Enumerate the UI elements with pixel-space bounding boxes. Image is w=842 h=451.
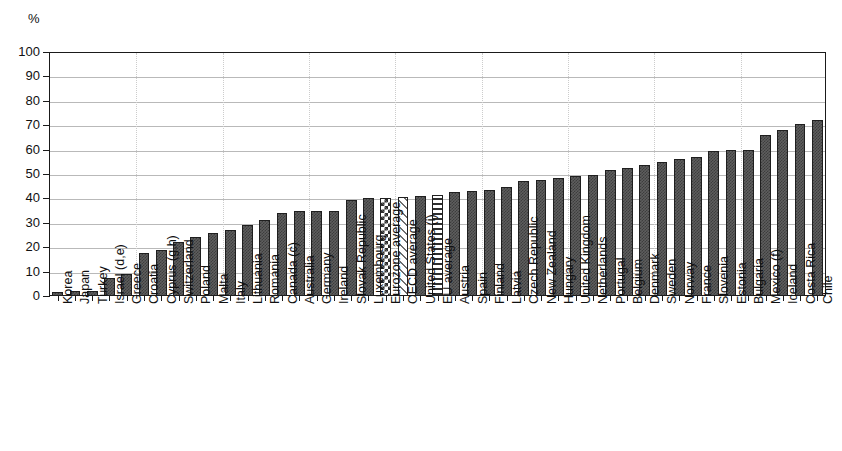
x-axis-label-finland: Finland <box>494 263 507 304</box>
x-axis-label-eurozone-average: Eurozone average <box>390 202 403 304</box>
x-axis-label-text: Slovak Republic <box>356 214 369 304</box>
x-axis-label-text: OECD average <box>407 219 420 304</box>
x-axis-label-new-zealand: New Zealand <box>546 230 559 304</box>
x-axis-label-text: Sweden <box>666 259 679 304</box>
x-axis-label-text: Israel (d,e) <box>114 244 127 304</box>
x-axis-label-text: Norway <box>684 262 697 304</box>
x-axis-label-text: Eurozone average <box>390 202 403 304</box>
x-axis-label-luxembourg: Luxembourg <box>373 235 386 305</box>
x-axis-label-hungary: Hungary <box>563 257 576 304</box>
x-axis-label-text: Greece <box>131 263 144 304</box>
x-axis-label-text: Estonia <box>736 262 749 304</box>
x-axis-label-text: Ireland <box>338 266 351 304</box>
y-axis-tick-label: 30 <box>0 216 40 229</box>
x-axis-label-latvia: Latvia <box>511 271 524 304</box>
x-axis-label-text: Japan <box>79 270 92 304</box>
x-axis-label-iceland: Iceland <box>787 264 800 304</box>
x-axis-label-text: Germany <box>321 253 334 304</box>
y-axis-tick-label: 40 <box>0 191 40 204</box>
x-axis-label-text: Netherlands <box>597 237 610 304</box>
x-axis-label-austria: Austria <box>459 265 472 304</box>
x-axis-label-slovak-republic: Slovak Republic <box>356 214 369 304</box>
x-axis-label-portugal: Portugal <box>615 257 628 304</box>
x-axis-label-text: Belgium <box>632 259 645 304</box>
y-axis-tick-label: 100 <box>0 45 40 58</box>
y-axis-tick-label: 10 <box>0 265 40 278</box>
x-axis-label-norway: Norway <box>684 262 697 304</box>
x-axis-label-czech-republic: Czech Republic <box>528 216 541 304</box>
x-axis-label-mexico-f: Mexico (f) <box>770 249 783 304</box>
x-axis-label-text: Luxembourg <box>373 235 386 305</box>
x-axis-label-bulgaria: Bulgaria <box>753 258 766 304</box>
x-axis-label-text: Slovenia <box>718 256 731 304</box>
x-axis-label-text: Romania <box>269 254 282 304</box>
x-axis-label-text: Czech Republic <box>528 216 541 304</box>
x-axis-label-text: Australia <box>304 255 317 304</box>
y-axis-tick-label: 90 <box>0 69 40 82</box>
x-axis-label-spain: Spain <box>477 272 490 304</box>
x-axis-label-greece: Greece <box>131 263 144 304</box>
x-axis-label-slovenia: Slovenia <box>718 256 731 304</box>
x-axis-labels: KoreaJapanTurkeyIsrael (d,e)GreeceCroati… <box>0 296 842 451</box>
x-axis-label-text: Korea <box>62 271 75 304</box>
x-axis-label-australia: Australia <box>304 255 317 304</box>
x-axis-label-text: Lithuania <box>252 253 265 304</box>
x-axis-label-text: United Kingdom <box>580 215 593 304</box>
x-axis-label-lithuania: Lithuania <box>252 253 265 304</box>
x-axis-label-text: United States (i) <box>425 214 438 304</box>
x-axis-label-text: France <box>701 265 714 304</box>
x-axis-label-estonia: Estonia <box>736 262 749 304</box>
x-axis-label-text: EU average <box>442 238 455 304</box>
x-axis-label-text: Turkey <box>97 266 110 304</box>
y-axis-tick-label: 50 <box>0 167 40 180</box>
y-axis-unit-label: % <box>28 12 40 26</box>
x-axis-label-text: Mexico (f) <box>770 249 783 304</box>
y-axis-tick-label: 80 <box>0 94 40 107</box>
x-axis-label-text: New Zealand <box>546 230 559 304</box>
x-axis-label-text: Hungary <box>563 257 576 304</box>
x-axis-label-text: Denmark <box>649 253 662 304</box>
x-axis-label-text: Italy <box>235 281 248 304</box>
x-axis-label-text: Spain <box>477 272 490 304</box>
x-axis-label-text: Chile <box>822 276 835 305</box>
x-axis-label-text: Austria <box>459 265 472 304</box>
x-axis-label-switzerland: Switzerland <box>183 239 196 304</box>
x-axis-label-text: Portugal <box>615 257 628 304</box>
x-axis-label-text: Bulgaria <box>753 258 766 304</box>
x-axis-label-costa-rica: Costa Rica <box>805 243 818 304</box>
x-axis-label-text: Costa Rica <box>805 243 818 304</box>
x-axis-label-eu-average: EU average <box>442 238 455 304</box>
x-axis-label-text: Latvia <box>511 271 524 304</box>
x-axis-label-japan: Japan <box>79 270 92 304</box>
x-axis-label-text: Poland <box>200 265 213 304</box>
x-axis-label-belgium: Belgium <box>632 259 645 304</box>
x-axis-label-chile: Chile <box>822 276 835 305</box>
bar-chart: % 0102030405060708090100 KoreaJapanTurke… <box>0 0 842 451</box>
x-axis-label-ireland: Ireland <box>338 266 351 304</box>
y-axis-tick-label: 20 <box>0 240 40 253</box>
x-axis-label-germany: Germany <box>321 253 334 304</box>
x-axis-label-oecd-average: OECD average <box>407 219 420 304</box>
x-axis-label-canada-c: Canada (c) <box>287 242 300 304</box>
x-axis-label-italy: Italy <box>235 281 248 304</box>
x-axis-label-turkey: Turkey <box>97 266 110 304</box>
x-axis-label-cyprus-g-h: Cyprus (g,h) <box>166 235 179 304</box>
x-axis-label-text: Finland <box>494 263 507 304</box>
x-axis-label-croatia: Croatia <box>148 264 161 304</box>
x-axis-label-israel-d-e: Israel (d,e) <box>114 244 127 304</box>
x-axis-label-text: Malta <box>218 273 231 304</box>
x-axis-label-romania: Romania <box>269 254 282 304</box>
x-axis-label-malta: Malta <box>218 273 231 304</box>
x-axis-label-united-kingdom: United Kingdom <box>580 215 593 304</box>
y-axis-tick-label: 60 <box>0 143 40 156</box>
x-axis-label-denmark: Denmark <box>649 253 662 304</box>
x-axis-label-sweden: Sweden <box>666 259 679 304</box>
x-axis-label-korea: Korea <box>62 271 75 304</box>
x-axis-label-united-states-i: United States (i) <box>425 214 438 304</box>
x-axis-label-france: France <box>701 265 714 304</box>
x-axis-label-text: Switzerland <box>183 239 196 304</box>
x-axis-label-text: Cyprus (g,h) <box>166 235 179 304</box>
x-axis-label-netherlands: Netherlands <box>597 237 610 304</box>
y-axis-tick-label: 70 <box>0 118 40 131</box>
x-axis-label-poland: Poland <box>200 265 213 304</box>
